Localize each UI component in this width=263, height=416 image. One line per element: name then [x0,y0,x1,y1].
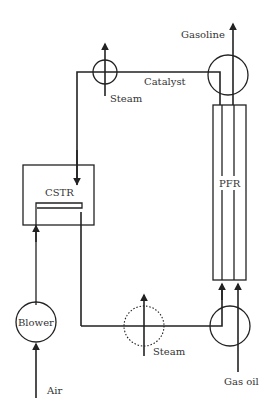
gasoline-label: Gasoline [181,29,225,40]
cstr-air-distributor [36,203,82,305]
process-flow-diagram: Gasoline Catalyst Steam CSTR PFR Blower … [0,0,263,416]
gas-oil-label: Gas oil [224,376,259,387]
pfr-outer-tube [213,105,246,280]
pfr-reactor [213,105,246,280]
top-steam-exchanger [93,44,117,96]
blower-label: Blower [18,317,54,328]
catalyst-feed-line [81,284,222,326]
separator-circle [208,55,248,95]
catalyst-label: Catalyst [144,76,186,87]
steam-bottom-label: Steam [153,346,186,357]
cstr-label: CSTR [45,187,74,198]
gas-oil-mixer [210,284,250,372]
pfr-label: PFR [219,178,241,189]
catalyst-return-line [77,72,220,185]
steam-top-label: Steam [110,93,143,104]
air-label: Air [46,385,62,396]
